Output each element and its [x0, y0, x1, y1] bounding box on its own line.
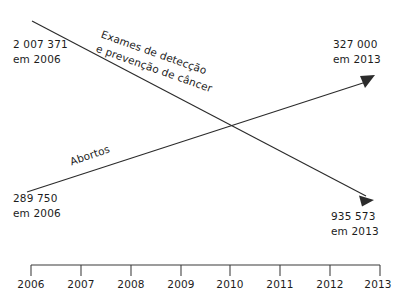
value-label-exames-2013: 327 000 em 2013: [333, 37, 381, 67]
value-number: 327 000: [333, 37, 381, 52]
x-axis-label-2010: 2010: [216, 278, 243, 291]
series-arrowhead-abortos: [360, 75, 375, 88]
x-axis-label-2013: 2013: [364, 278, 391, 291]
value-label-abortos-2013: 935 573 em 2013: [331, 209, 379, 239]
value-number: 935 573: [331, 209, 379, 224]
chart-figure: 2 007 371 em 2006 327 000 em 2013 289 75…: [0, 0, 405, 308]
value-year: em 2006: [13, 52, 68, 67]
value-label-exames-2006: 2 007 371 em 2006: [13, 37, 68, 67]
value-number: 2 007 371: [13, 37, 68, 52]
x-axis-label-2008: 2008: [117, 278, 144, 291]
x-axis-label-2007: 2007: [67, 278, 94, 291]
x-axis-label-2006: 2006: [17, 278, 44, 291]
x-axis-label-2009: 2009: [167, 278, 194, 291]
x-axis: [31, 265, 380, 276]
value-year: em 2013: [333, 52, 381, 67]
series-line-exames: [32, 21, 366, 196]
x-axis-label-2012: 2012: [316, 278, 343, 291]
series-line-abortos: [27, 82, 366, 192]
value-number: 289 750: [13, 191, 61, 206]
value-label-abortos-2006: 289 750 em 2006: [13, 191, 61, 221]
value-year: em 2006: [13, 206, 61, 221]
x-axis-label-2011: 2011: [266, 278, 293, 291]
series-arrowhead-exames: [359, 196, 374, 207]
value-year: em 2013: [331, 224, 379, 239]
